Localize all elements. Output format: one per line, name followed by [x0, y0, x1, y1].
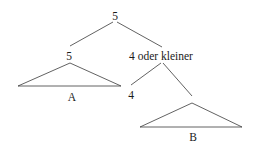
left-child-node-label: 5 [66, 50, 72, 62]
subtree-b-triangle [140, 103, 242, 127]
edge-right-to-inner-leaf [131, 63, 161, 85]
subtree-b-label: B [189, 131, 197, 143]
root-node-label: 5 [112, 10, 118, 22]
inner-leaf-label: 4 [128, 89, 134, 101]
edge-right-to-subtree-b [163, 63, 192, 96]
tree-diagram: 5 5 4 oder kleiner A 4 B [0, 0, 254, 147]
subtree-a-label: A [68, 91, 77, 103]
subtree-a-triangle [18, 63, 121, 86]
edge-root-to-left [70, 22, 113, 46]
right-child-node-label: 4 oder kleiner [129, 50, 193, 62]
edge-root-to-right [117, 22, 162, 47]
